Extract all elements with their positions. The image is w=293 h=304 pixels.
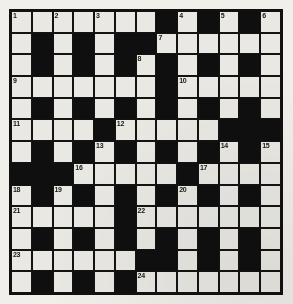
open-square[interactable]: 1 — [11, 11, 32, 33]
open-square[interactable] — [219, 33, 240, 55]
open-square[interactable] — [53, 33, 74, 55]
open-square[interactable]: 15 — [260, 141, 281, 163]
open-square[interactable] — [219, 185, 240, 207]
open-square[interactable] — [219, 228, 240, 250]
open-square[interactable] — [53, 228, 74, 250]
open-square[interactable] — [239, 33, 260, 55]
open-square[interactable] — [136, 141, 157, 163]
open-square[interactable] — [260, 33, 281, 55]
open-square[interactable] — [53, 119, 74, 141]
open-square[interactable]: 3 — [94, 11, 115, 33]
open-square[interactable] — [219, 250, 240, 272]
open-square[interactable] — [53, 250, 74, 272]
open-square[interactable] — [53, 206, 74, 228]
open-square[interactable] — [219, 163, 240, 185]
open-square[interactable]: 10 — [177, 76, 198, 98]
open-square[interactable]: 17 — [198, 163, 219, 185]
open-square[interactable] — [136, 11, 157, 33]
open-square[interactable] — [260, 98, 281, 120]
open-square[interactable] — [32, 206, 53, 228]
open-square[interactable]: 8 — [136, 54, 157, 76]
open-square[interactable]: 4 — [177, 11, 198, 33]
open-square[interactable] — [198, 206, 219, 228]
open-square[interactable] — [94, 54, 115, 76]
open-square[interactable] — [260, 54, 281, 76]
open-square[interactable] — [73, 250, 94, 272]
open-square[interactable] — [73, 119, 94, 141]
open-square[interactable] — [94, 76, 115, 98]
open-square[interactable] — [94, 250, 115, 272]
open-square[interactable] — [260, 250, 281, 272]
open-square[interactable] — [73, 206, 94, 228]
open-square[interactable] — [11, 98, 32, 120]
open-square[interactable] — [53, 141, 74, 163]
open-square[interactable] — [115, 250, 136, 272]
open-square[interactable] — [136, 185, 157, 207]
open-square[interactable] — [115, 11, 136, 33]
open-square[interactable] — [136, 119, 157, 141]
open-square[interactable]: 6 — [260, 11, 281, 33]
open-square[interactable]: 14 — [219, 141, 240, 163]
open-square[interactable] — [115, 76, 136, 98]
open-square[interactable] — [177, 228, 198, 250]
open-square[interactable] — [73, 11, 94, 33]
open-square[interactable] — [239, 206, 260, 228]
open-square[interactable] — [260, 228, 281, 250]
open-square[interactable] — [94, 33, 115, 55]
open-square[interactable] — [136, 163, 157, 185]
open-square[interactable] — [73, 76, 94, 98]
open-square[interactable] — [156, 206, 177, 228]
open-square[interactable]: 11 — [11, 119, 32, 141]
open-square[interactable] — [136, 98, 157, 120]
open-square[interactable] — [11, 228, 32, 250]
open-square[interactable]: 19 — [53, 185, 74, 207]
open-square[interactable] — [11, 33, 32, 55]
open-square[interactable] — [177, 271, 198, 293]
open-square[interactable] — [177, 54, 198, 76]
open-square[interactable] — [53, 76, 74, 98]
open-square[interactable] — [32, 250, 53, 272]
open-square[interactable]: 16 — [73, 163, 94, 185]
crossword-grid[interactable]: 123456789101112131415161718192021222324 — [9, 9, 283, 295]
open-square[interactable] — [94, 271, 115, 293]
open-square[interactable] — [53, 98, 74, 120]
open-square[interactable] — [156, 271, 177, 293]
open-square[interactable] — [219, 206, 240, 228]
open-square[interactable] — [198, 119, 219, 141]
open-square[interactable] — [260, 163, 281, 185]
open-square[interactable] — [219, 271, 240, 293]
open-square[interactable] — [94, 98, 115, 120]
open-square[interactable] — [11, 271, 32, 293]
open-square[interactable] — [32, 76, 53, 98]
open-square[interactable] — [156, 119, 177, 141]
open-square[interactable] — [219, 76, 240, 98]
open-square[interactable]: 5 — [219, 11, 240, 33]
open-square[interactable] — [260, 76, 281, 98]
open-square[interactable] — [94, 163, 115, 185]
open-square[interactable] — [239, 271, 260, 293]
open-square[interactable] — [260, 206, 281, 228]
open-square[interactable] — [32, 11, 53, 33]
open-square[interactable] — [219, 98, 240, 120]
open-square[interactable]: 12 — [115, 119, 136, 141]
open-square[interactable]: 18 — [11, 185, 32, 207]
open-square[interactable]: 24 — [136, 271, 157, 293]
open-square[interactable] — [239, 76, 260, 98]
open-square[interactable]: 21 — [11, 206, 32, 228]
open-square[interactable]: 22 — [136, 206, 157, 228]
open-square[interactable] — [115, 163, 136, 185]
open-square[interactable] — [11, 141, 32, 163]
open-square[interactable]: 2 — [53, 11, 74, 33]
open-square[interactable] — [53, 54, 74, 76]
open-square[interactable] — [198, 271, 219, 293]
open-square[interactable] — [177, 141, 198, 163]
open-square[interactable] — [32, 119, 53, 141]
open-square[interactable] — [177, 98, 198, 120]
open-square[interactable]: 20 — [177, 185, 198, 207]
open-square[interactable] — [260, 271, 281, 293]
open-square[interactable] — [198, 76, 219, 98]
open-square[interactable] — [94, 206, 115, 228]
open-square[interactable] — [198, 33, 219, 55]
open-square[interactable] — [239, 163, 260, 185]
open-square[interactable] — [94, 185, 115, 207]
